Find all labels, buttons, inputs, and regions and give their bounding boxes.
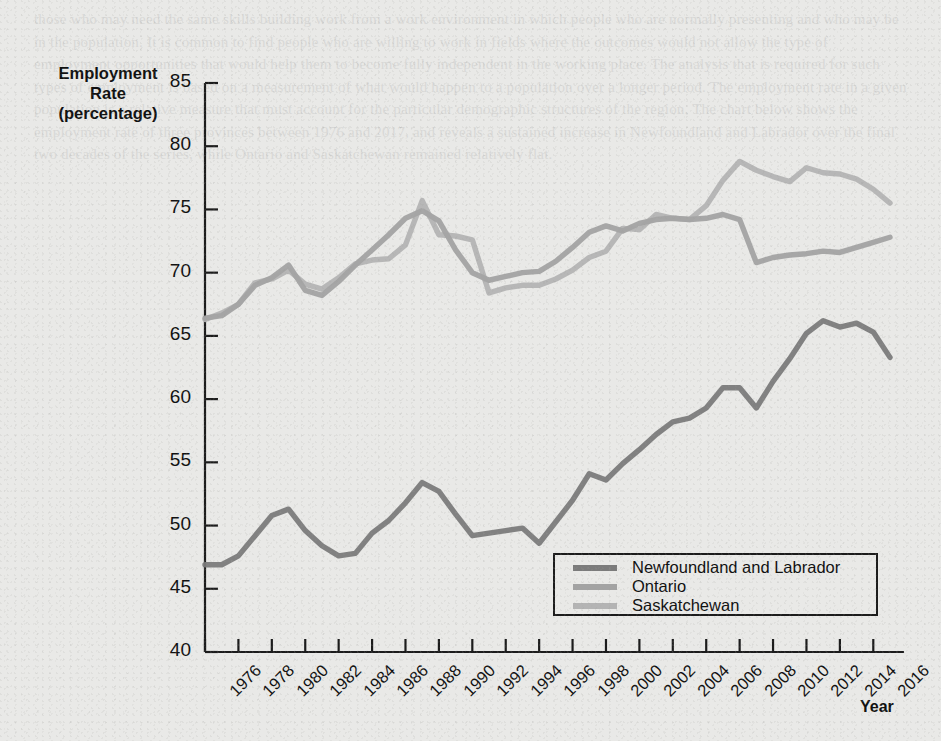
y-tick-label: 85 xyxy=(149,70,191,92)
y-tick-label: 55 xyxy=(149,449,191,471)
y-tick-label: 80 xyxy=(149,133,191,155)
legend-swatch-icon xyxy=(573,565,617,571)
legend-item: Ontario xyxy=(573,577,876,596)
y-tick-label: 50 xyxy=(149,513,191,535)
series-layer xyxy=(205,161,890,564)
x-axis-title: Year xyxy=(860,697,894,717)
employment-rate-line-chart: Employment Rate (percentage) Year 404550… xyxy=(0,0,941,741)
y-tick-label: 70 xyxy=(149,260,191,282)
series-line-saskatchewan xyxy=(205,161,890,319)
y-tick-label: 40 xyxy=(149,639,191,661)
legend-item-label: Saskatchewan xyxy=(632,596,739,615)
legend-item-label: Newfoundland and Labrador xyxy=(632,558,840,577)
y-axis-title-line-3: (percentage) xyxy=(38,103,178,123)
legend-item: Saskatchewan xyxy=(573,596,876,615)
series-line-ontario xyxy=(205,211,890,318)
legend-swatch-icon xyxy=(573,584,617,590)
legend-swatch-icon xyxy=(573,603,617,609)
series-line-newfoundland-and-labrador xyxy=(205,321,890,565)
chart-legend: Newfoundland and LabradorOntarioSaskatch… xyxy=(553,553,878,616)
y-tick-label: 65 xyxy=(149,323,191,345)
legend-item-label: Ontario xyxy=(632,577,686,596)
y-tick-label: 60 xyxy=(149,386,191,408)
y-tick-label: 45 xyxy=(149,576,191,598)
legend-item: Newfoundland and Labrador xyxy=(573,558,876,577)
y-tick-label: 75 xyxy=(149,196,191,218)
